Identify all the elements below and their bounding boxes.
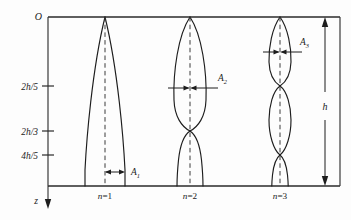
mode-n1-amplitude-label: A1 <box>130 167 140 179</box>
mode-n3-label-value: 3 <box>283 191 288 201</box>
mode-n2-amplitude-arrow-inner-right <box>191 85 197 90</box>
mode-n3-lobe3-left-curve <box>272 155 280 186</box>
mode-n1-label: n=1 <box>98 191 113 201</box>
height-dimension-group: h <box>322 17 328 186</box>
mode-n1-amplitude-arrow-left <box>105 169 111 174</box>
z-axis-arrowhead <box>45 199 51 209</box>
mode-n2-upper-right-curve <box>190 17 206 131</box>
mode-n2-label: n=2 <box>183 191 198 201</box>
mode-n2-amplitude-label: A2 <box>217 73 228 85</box>
mode-n1-amplitude-arrow-right <box>119 169 125 174</box>
mode-n1-label-value: 1 <box>108 191 113 201</box>
mode-n3-lobe2-left-curve <box>269 86 280 155</box>
height-dim-bottom-arrowhead <box>322 176 328 186</box>
mode-n3-amplitude-arrow-inner-right <box>281 49 287 54</box>
tick-label-2h-over-5: 2h/5 <box>21 82 38 92</box>
mode-group-n1: A1 n=1 <box>85 17 140 201</box>
mode-group-n3: A3 n=3 <box>263 17 309 201</box>
mode-n2-amplitude-subscript: 2 <box>224 78 228 85</box>
figure-canvas: 2h/5 2h/3 4h/5 O z A1 n=1 <box>0 0 351 220</box>
height-dim-top-arrowhead <box>322 17 328 27</box>
mode-n1-amplitude-subscript: 1 <box>137 172 140 179</box>
mode-n2-upper-left-curve <box>174 17 190 131</box>
mode-n3-label: n=3 <box>273 191 288 201</box>
mode-n2-lower-left-curve <box>177 131 190 186</box>
mode-n3-lobe3-right-curve <box>280 155 288 186</box>
mode-shape-figure: 2h/5 2h/3 4h/5 O z A1 n=1 <box>0 0 351 220</box>
height-label: h <box>323 101 328 112</box>
mode-n3-amplitude-arrow-inner-left <box>274 49 280 54</box>
mode-n2-label-value: 2 <box>193 191 198 201</box>
mode-n3-amplitude-label: A3 <box>299 37 309 49</box>
mode-n2-lower-right-curve <box>190 131 203 186</box>
mode-n3-lobe2-right-curve <box>280 86 291 155</box>
tick-label-4h-over-5: 4h/5 <box>21 151 38 161</box>
mode-n2-amplitude-arrow-inner-left <box>184 85 190 90</box>
origin-label: O <box>35 11 42 22</box>
mode-n3-amplitude-subscript: 3 <box>305 42 309 49</box>
mode-group-n2: A2 n=2 <box>168 17 228 201</box>
z-axis-label: z <box>33 195 38 206</box>
tick-label-2h-over-3: 2h/3 <box>21 127 38 137</box>
mode-n1-right-curve <box>105 17 125 186</box>
mode-n1-left-curve <box>85 17 105 186</box>
